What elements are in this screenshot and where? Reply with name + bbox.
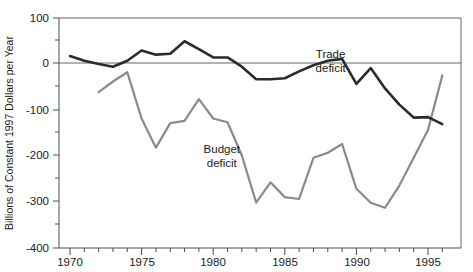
- plot-frame: [59, 18, 461, 248]
- x-label-1975: 1975: [129, 256, 155, 268]
- annotation-budget-line2: deficit: [207, 157, 238, 169]
- y-label-neg300: -300: [26, 195, 49, 207]
- y-axis-title: Billions of Constant 1997 Dollars per Ye…: [3, 36, 15, 230]
- x-axis-ticks: [70, 248, 442, 255]
- series-trade-deficit-line: [70, 41, 442, 124]
- annotation-trade-line1: Trade: [316, 48, 346, 60]
- line-chart: 100 0 -100 -200 -300 -400 1970 1975 1980…: [0, 0, 473, 272]
- annotation-trade-line2: deficit: [316, 62, 347, 74]
- x-label-1980: 1980: [200, 256, 226, 268]
- x-label-1990: 1990: [344, 256, 370, 268]
- x-label-1995: 1995: [415, 256, 441, 268]
- y-label-0: 0: [43, 57, 49, 69]
- series-budget-deficit-line: [99, 72, 443, 208]
- y-label-neg400: -400: [26, 242, 49, 254]
- y-label-100: 100: [30, 12, 49, 24]
- x-axis-labels: 1970 1975 1980 1985 1990 1995: [57, 256, 441, 268]
- x-label-1970: 1970: [57, 256, 83, 268]
- y-label-neg200: -200: [26, 149, 49, 161]
- annotation-budget-line1: Budget: [204, 143, 241, 155]
- y-label-neg100: -100: [26, 104, 49, 116]
- chart-container: 100 0 -100 -200 -300 -400 1970 1975 1980…: [0, 0, 473, 272]
- x-label-1985: 1985: [272, 256, 298, 268]
- y-axis-labels: 100 0 -100 -200 -300 -400: [26, 12, 49, 254]
- annotation-budget-deficit: Budget deficit: [204, 143, 241, 169]
- y-axis-ticks: [53, 18, 59, 248]
